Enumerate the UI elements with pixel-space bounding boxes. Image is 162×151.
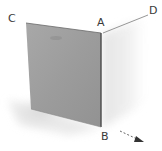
vertex-label-c: C (8, 13, 16, 24)
diagram-graphic (0, 0, 162, 151)
dashed-arrow (120, 131, 144, 142)
vertex-label-d: D (149, 5, 157, 16)
folded-plane-diagram: C A D B (0, 0, 162, 151)
vertex-label-a: A (97, 17, 105, 28)
vertex-label-b: B (101, 131, 109, 142)
right-plane (102, 16, 150, 128)
